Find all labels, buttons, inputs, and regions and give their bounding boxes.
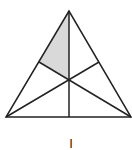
triangle-medians-diagram [0,0,132,150]
shaded-region [39,11,69,79]
figure-label: I [0,137,132,150]
